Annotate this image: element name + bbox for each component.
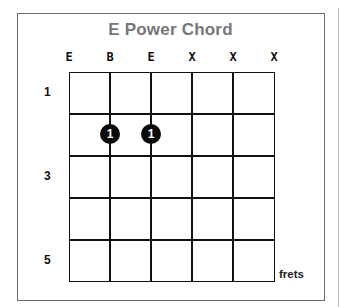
chord-title: E Power Chord <box>0 20 341 40</box>
string-line <box>232 72 234 282</box>
adjacent-panel-edge <box>338 8 339 307</box>
string-line <box>109 72 111 282</box>
finger-dot: 1 <box>141 124 161 144</box>
string-line <box>150 72 152 282</box>
fret-line <box>69 155 275 157</box>
fret-line <box>69 239 275 241</box>
fret-number: 5 <box>44 253 51 267</box>
finger-dot: 1 <box>100 124 120 144</box>
string-label: X <box>225 50 241 64</box>
fretboard-grid <box>69 72 275 282</box>
fret-number: 1 <box>44 85 51 99</box>
string-label: X <box>184 50 200 64</box>
string-label: X <box>266 50 282 64</box>
fret-number: 3 <box>44 169 51 183</box>
frets-label: frets <box>279 268 304 280</box>
string-label: B <box>102 50 118 64</box>
string-label: E <box>143 50 159 64</box>
fret-line <box>69 113 275 115</box>
string-line <box>191 72 193 282</box>
fret-line <box>69 197 275 199</box>
string-label: E <box>61 50 77 64</box>
